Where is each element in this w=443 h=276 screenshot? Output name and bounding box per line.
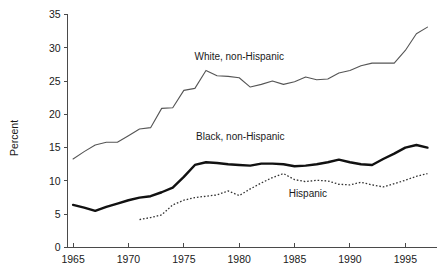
x-tick-label: 1980 — [228, 253, 252, 265]
x-axis-ticks — [73, 243, 405, 248]
y-axis-title: Percent — [8, 120, 20, 156]
x-axis-tick-labels: 1965197019751980198519901995 — [61, 253, 417, 265]
y-tick-label: 30 — [49, 42, 61, 54]
x-tick-label: 1965 — [61, 253, 85, 265]
y-axis-tick-labels: 05101520253035 — [49, 8, 61, 253]
series-annotation-label: Hispanic — [289, 188, 327, 199]
line-chart: 05101520253035 1965197019751980198519901… — [0, 0, 443, 276]
x-tick-label: 1990 — [338, 253, 362, 265]
y-tick-label: 15 — [49, 141, 61, 153]
x-tick-label: 1995 — [394, 253, 418, 265]
chart-container: 05101520253035 1965197019751980198519901… — [0, 0, 443, 276]
y-tick-label: 0 — [55, 241, 61, 253]
x-tick-label: 1970 — [117, 253, 141, 265]
y-tick-label: 5 — [55, 208, 61, 220]
y-tick-label: 35 — [49, 8, 61, 20]
y-axis-ticks — [64, 15, 68, 248]
y-tick-label: 10 — [49, 175, 61, 187]
x-tick-label: 1975 — [172, 253, 196, 265]
x-tick-label: 1985 — [283, 253, 307, 265]
series-annotation-label: Black, non-Hispanic — [196, 131, 284, 142]
y-tick-label: 25 — [49, 75, 61, 87]
series-line-hispanic — [140, 174, 428, 220]
series-labels: White, non-HispanicBlack, non-HispanicHi… — [194, 51, 327, 199]
y-tick-label: 20 — [49, 108, 61, 120]
series-line-black-non-hispanic — [73, 145, 427, 211]
series-annotation-label: White, non-Hispanic — [194, 51, 283, 62]
